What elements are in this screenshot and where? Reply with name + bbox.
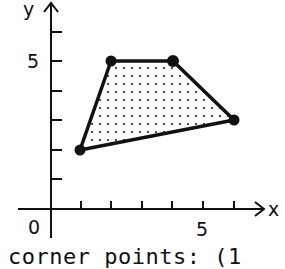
y-axis-label: y (23, 0, 34, 20)
shaded-region (80, 61, 234, 150)
caption-text: corner points: (1 (8, 244, 242, 269)
vertex-point (229, 115, 240, 126)
y-tick-label-5: 5 (27, 50, 39, 72)
vertex-point (106, 56, 117, 67)
y-ticks (51, 32, 62, 179)
origin-label: 0 (28, 216, 40, 238)
x-axis-label: x (268, 198, 279, 220)
x-tick-label-5: 5 (196, 218, 208, 240)
vertex-point (167, 55, 179, 67)
vertex-point (75, 145, 86, 156)
x-ticks (81, 201, 234, 209)
